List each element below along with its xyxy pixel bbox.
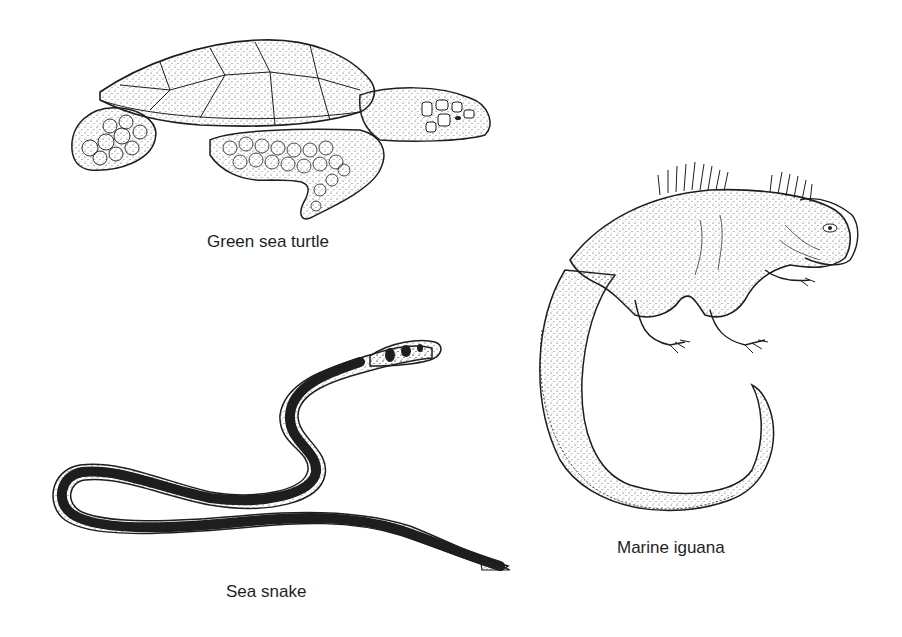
turtle-label: Green sea turtle	[207, 232, 329, 252]
snake-illustration	[40, 330, 520, 580]
turtle-illustration	[60, 30, 510, 230]
iguana-label: Marine iguana	[617, 538, 725, 558]
snake-label: Sea snake	[226, 582, 306, 602]
iguana-illustration	[520, 150, 870, 530]
